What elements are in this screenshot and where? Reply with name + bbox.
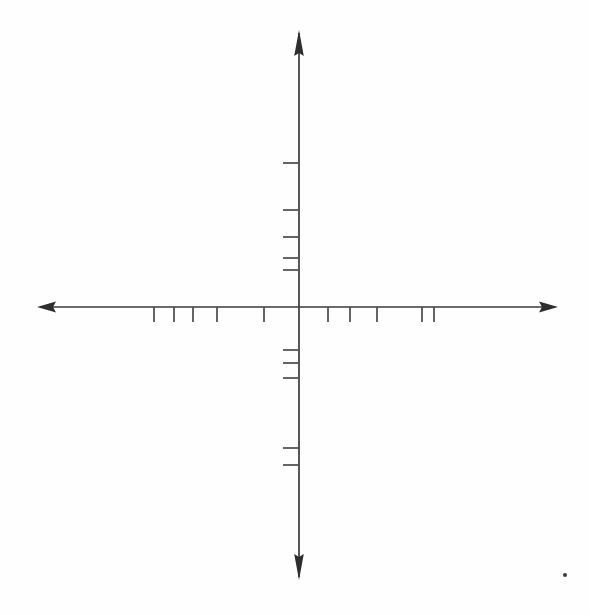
y-axis-bottom-arrowhead	[294, 554, 304, 580]
coordinate-plane-figure	[0, 0, 589, 615]
y-axis-negative-ticks	[283, 350, 299, 465]
y-axis-positive-ticks	[283, 163, 299, 270]
y-axis-top-arrowhead	[294, 30, 304, 56]
stray-marks-group	[563, 573, 567, 577]
y-axis-group	[294, 30, 304, 580]
x-axis-group	[37, 302, 558, 313]
axes-svg	[0, 0, 589, 615]
x-axis-negative-ticks	[154, 307, 264, 322]
x-axis-positive-ticks	[328, 307, 434, 322]
stray-speck	[563, 573, 567, 577]
